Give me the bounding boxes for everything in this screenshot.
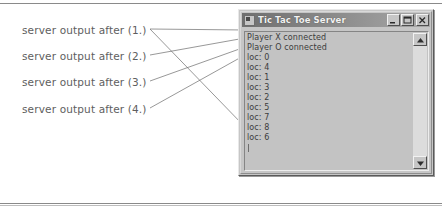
- output-line: loc: 5: [247, 103, 397, 113]
- output-line-list: Player X connected Player O connected lo…: [247, 33, 397, 143]
- output-line: loc: 7: [247, 113, 397, 123]
- output-line: loc: 1: [247, 73, 397, 83]
- scrollbar-track[interactable]: [413, 46, 427, 156]
- figure-bottom-rule: [0, 203, 442, 204]
- minimize-button[interactable]: [387, 14, 400, 26]
- annotation-label-4: server output after (4.): [22, 103, 147, 115]
- output-line: loc: 3: [247, 83, 397, 93]
- app-icon: [244, 15, 255, 26]
- output-line: Player X connected: [247, 33, 397, 43]
- figure-top-rule: [0, 3, 442, 4]
- vertical-scrollbar[interactable]: [413, 33, 427, 169]
- output-line: loc: 4: [247, 63, 397, 73]
- maximize-button[interactable]: [401, 14, 414, 26]
- close-button[interactable]: [416, 14, 429, 26]
- output-line: loc: 8: [247, 123, 397, 133]
- annotation-label-1: server output after (1.): [22, 24, 147, 36]
- annotation-label-3: server output after (3.): [22, 76, 147, 88]
- annotation-label-2: server output after (2.): [22, 50, 147, 62]
- window-title: Tic Tac Toe Server: [258, 15, 386, 25]
- scroll-up-icon[interactable]: [413, 33, 427, 46]
- output-line: loc: 6: [247, 133, 397, 143]
- server-output-textarea[interactable]: Player X connected Player O connected lo…: [244, 31, 429, 171]
- scroll-down-icon[interactable]: [413, 156, 427, 169]
- output-line: loc: 0: [247, 53, 397, 63]
- figure-root: server output after (1.) server output a…: [0, 0, 442, 217]
- output-line: Player O connected: [247, 43, 397, 53]
- output-line: loc: 2: [247, 93, 397, 103]
- window-titlebar[interactable]: Tic Tac Toe Server: [242, 13, 430, 27]
- figure-bottom-rule-shadow: [0, 205, 442, 206]
- text-caret: [248, 144, 249, 152]
- server-window: Tic Tac Toe Server Player X connected Pl…: [238, 9, 434, 176]
